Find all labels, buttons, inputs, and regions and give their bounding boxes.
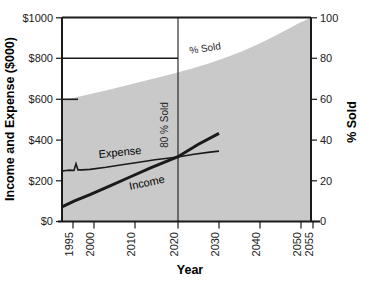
x-tick-2030: 2030 [209, 232, 221, 256]
y-tick-200: $200 [29, 175, 53, 187]
y2-axis-title: % Sold [345, 101, 359, 143]
y2-tick-60: 60 [320, 93, 332, 105]
figure-caption [0, 274, 369, 288]
y2-tick-100: 100 [320, 12, 338, 24]
y-tick-1000: $1000 [22, 12, 53, 24]
x-axis-ticks [73, 222, 313, 229]
y2-tick-40: 40 [320, 134, 332, 146]
chart-container: Expense Income % Sold 80 % Sold $1000 $8… [0, 0, 369, 288]
x-tick-2050: 2050 [291, 232, 303, 256]
y-tick-600: $600 [29, 93, 53, 105]
y-tick-400: $400 [29, 134, 53, 146]
y2-tick-20: 20 [320, 175, 332, 187]
x-tick-2055: 2055 [303, 232, 315, 256]
percent-sold-annotation-label: % Sold [189, 40, 222, 56]
y-axis-title: Income and Expense ($000) [3, 37, 17, 201]
x-tick-2000: 2000 [84, 232, 96, 256]
y-tick-800: $800 [29, 52, 53, 64]
y2-tick-0: 0 [320, 215, 326, 227]
x-tick-2010: 2010 [125, 232, 137, 256]
x-axis-tick-labels: 1995 2000 2010 2020 2030 2040 2050 2055 [63, 232, 315, 256]
x-tick-2020: 2020 [168, 232, 180, 256]
y-tick-0: $0 [41, 215, 53, 227]
x-tick-2040: 2040 [250, 232, 262, 256]
x-tick-1995: 1995 [63, 232, 75, 256]
right-axis-tick-labels: 100 80 60 40 20 0 [320, 12, 338, 227]
eighty-percent-sold-annotation-label: 80 % Sold [159, 102, 170, 148]
left-axis-tick-labels: $1000 $800 $600 $400 $200 $0 [22, 12, 53, 227]
income-expense-percent-sold-chart: Expense Income % Sold 80 % Sold $1000 $8… [0, 0, 369, 288]
y2-tick-80: 80 [320, 52, 332, 64]
